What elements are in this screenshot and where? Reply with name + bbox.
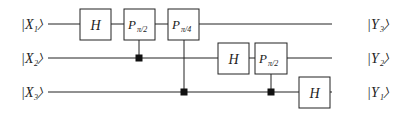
svg-text:H: H bbox=[308, 86, 320, 101]
svg-text:X: X bbox=[24, 51, 34, 66]
gate-p-pi4-1: P π/4 bbox=[168, 9, 199, 40]
quantum-circuit: H P π/2 P π/4 H P π/2 H | X 1 〉 | X 2 〉 … bbox=[0, 0, 405, 113]
svg-text:〉: 〉 bbox=[37, 86, 49, 100]
svg-text:π/2: π/2 bbox=[268, 59, 278, 68]
gate-h-2: H bbox=[218, 43, 249, 74]
input-label-x1: | X 1 〉 bbox=[21, 17, 49, 34]
svg-text:X: X bbox=[24, 17, 34, 32]
svg-text:H: H bbox=[227, 52, 239, 67]
svg-text:〉: 〉 bbox=[383, 52, 395, 66]
svg-text:〉: 〉 bbox=[37, 52, 49, 66]
svg-text:P: P bbox=[171, 17, 180, 32]
gate-h-1: H bbox=[80, 9, 111, 40]
svg-text:P: P bbox=[127, 17, 136, 32]
gate-p-pi2-1: P π/2 bbox=[124, 9, 155, 40]
svg-text:H: H bbox=[89, 18, 101, 33]
control-dot bbox=[181, 89, 188, 96]
input-label-x3: | X 3 〉 bbox=[21, 85, 49, 102]
svg-text:〉: 〉 bbox=[37, 18, 49, 32]
output-label-y3: | Y 3 〉 bbox=[367, 17, 395, 34]
svg-text:π/2: π/2 bbox=[137, 25, 147, 34]
gate-h-3: H bbox=[299, 77, 330, 108]
svg-text:〉: 〉 bbox=[383, 18, 395, 32]
svg-text:π/4: π/4 bbox=[181, 25, 191, 34]
svg-text:P: P bbox=[258, 51, 267, 66]
gate-p-pi2-2: P π/2 bbox=[255, 43, 287, 74]
control-dot bbox=[268, 89, 275, 96]
svg-text:〉: 〉 bbox=[383, 86, 395, 100]
svg-text:X: X bbox=[24, 85, 34, 100]
input-label-x2: | X 2 〉 bbox=[21, 51, 49, 68]
output-label-y2: | Y 2 〉 bbox=[367, 51, 395, 68]
output-label-y1: | Y 1 〉 bbox=[367, 85, 395, 102]
control-dot bbox=[136, 55, 143, 62]
